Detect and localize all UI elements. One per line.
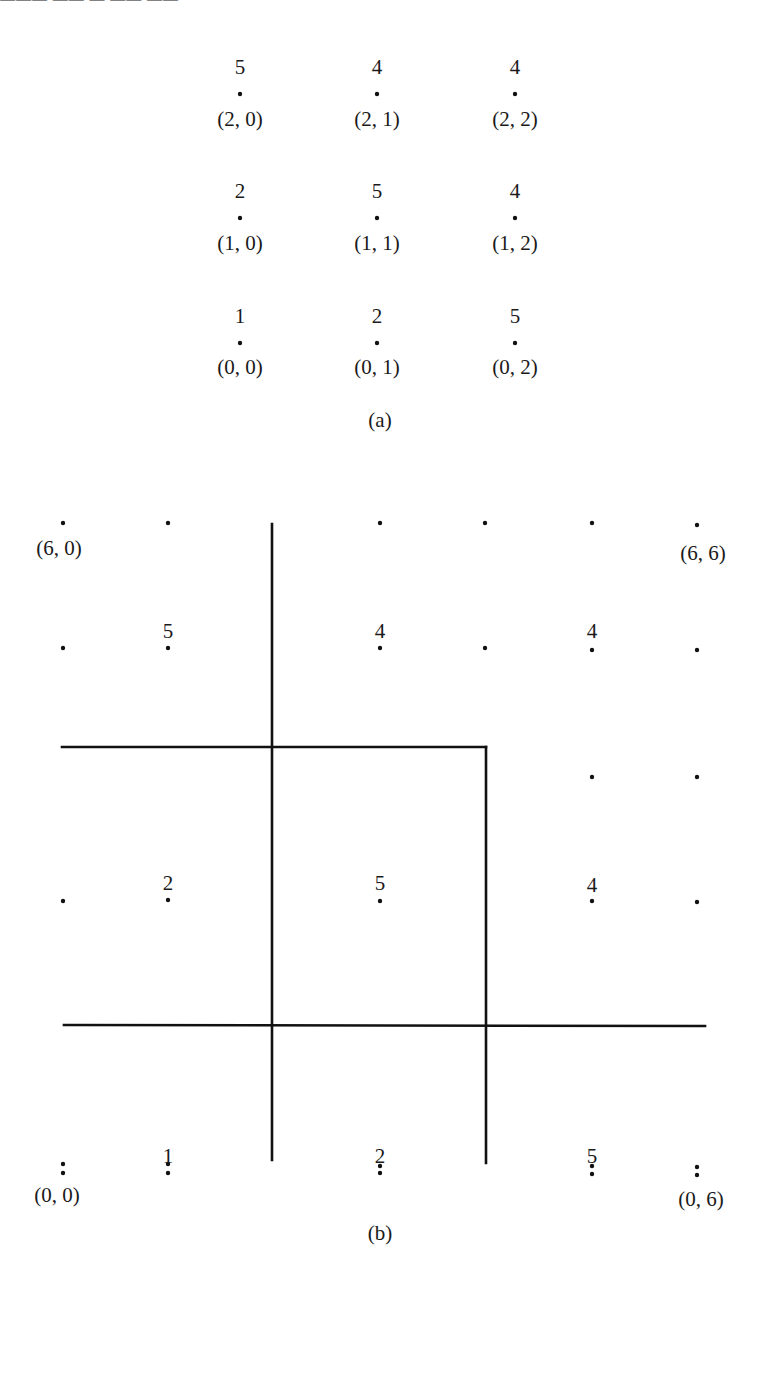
lattice-dot [590, 899, 594, 903]
grid-partition-figure: 5(2, 0)4(2, 1)4(2, 2)2(1, 0)5(1, 1)4(1, … [0, 0, 763, 1389]
point-value: 5 [235, 55, 246, 79]
corner-coordinate: (6, 0) [36, 536, 82, 560]
point-value: 4 [510, 179, 521, 203]
point-dot [375, 92, 379, 96]
point-coordinate: (1, 0) [217, 231, 263, 255]
point-coordinate: (0, 1) [354, 355, 400, 379]
point-dot [238, 216, 242, 220]
lattice-dot [166, 898, 170, 902]
corner-coordinate: (6, 6) [680, 541, 726, 565]
lattice-dot [590, 521, 594, 525]
lattice-dot [695, 523, 699, 527]
region-value: 2 [375, 1144, 386, 1168]
point-dot [513, 341, 517, 345]
region-value: 5 [587, 1144, 598, 1168]
grid-point: 4(2, 2) [492, 55, 538, 131]
point-dot [375, 341, 379, 345]
point-coordinate: (2, 2) [492, 107, 538, 131]
point-dot [238, 341, 242, 345]
region-value: 5 [375, 871, 386, 895]
point-value: 4 [510, 55, 521, 79]
point-value: 2 [372, 304, 383, 328]
lattice-dot [61, 1171, 65, 1175]
region-value: 2 [163, 871, 174, 895]
point-dot [513, 92, 517, 96]
lattice-dot [61, 646, 65, 650]
lattice-dot [378, 899, 382, 903]
point-value: 2 [235, 179, 246, 203]
point-value: 4 [372, 55, 383, 79]
point-dot [513, 216, 517, 220]
lattice-dot [61, 899, 65, 903]
point-dot [375, 216, 379, 220]
figure-a-caption: (a) [368, 408, 391, 432]
partition-line [64, 1025, 705, 1026]
region-value: 4 [587, 619, 598, 643]
grid-point: 2(1, 0) [217, 179, 263, 255]
point-coordinate: (0, 0) [217, 355, 263, 379]
lattice-dot [166, 646, 170, 650]
figure-b-region-values: 544254125 [163, 619, 598, 1168]
lattice-dot [166, 521, 170, 525]
lattice-dot [378, 521, 382, 525]
point-value: 1 [235, 304, 246, 328]
point-dot [238, 92, 242, 96]
lattice-dot [695, 775, 699, 779]
grid-point: 1(0, 0) [217, 304, 263, 379]
grid-point: 4(2, 1) [354, 55, 400, 131]
figure-a-grid: 5(2, 0)4(2, 1)4(2, 2)2(1, 0)5(1, 1)4(1, … [217, 55, 538, 379]
lattice-dot [695, 1173, 699, 1177]
grid-point: 5(0, 2) [492, 304, 538, 379]
point-value: 5 [372, 179, 383, 203]
corner-coordinate: (0, 6) [678, 1187, 724, 1211]
region-value: 4 [587, 873, 598, 897]
region-value: 5 [163, 619, 174, 643]
lattice-dot [695, 648, 699, 652]
lattice-dot [166, 1171, 170, 1175]
lattice-dot [483, 521, 487, 525]
lattice-dot [378, 1171, 382, 1175]
point-coordinate: (1, 1) [354, 231, 400, 255]
grid-point: 5(2, 0) [217, 55, 263, 131]
figure-b-caption: (b) [368, 1221, 393, 1245]
point-coordinate: (2, 1) [354, 107, 400, 131]
grid-point: 4(1, 2) [492, 179, 538, 255]
region-value: 1 [163, 1144, 174, 1168]
lattice-dot [590, 1172, 594, 1176]
lattice-dot [590, 775, 594, 779]
lattice-dot [695, 1165, 699, 1169]
point-coordinate: (1, 2) [492, 231, 538, 255]
grid-point: 2(0, 1) [354, 304, 400, 379]
region-value: 4 [375, 619, 386, 643]
lattice-dot [483, 646, 487, 650]
grid-point: 5(1, 1) [354, 179, 400, 255]
corner-coordinate: (0, 0) [34, 1183, 80, 1207]
lattice-dot [378, 646, 382, 650]
point-value: 5 [510, 304, 521, 328]
lattice-dot [61, 1162, 65, 1166]
point-coordinate: (0, 2) [492, 355, 538, 379]
lattice-dot [590, 648, 594, 652]
lattice-dot [61, 521, 65, 525]
point-coordinate: (2, 0) [217, 107, 263, 131]
lattice-dot [695, 900, 699, 904]
